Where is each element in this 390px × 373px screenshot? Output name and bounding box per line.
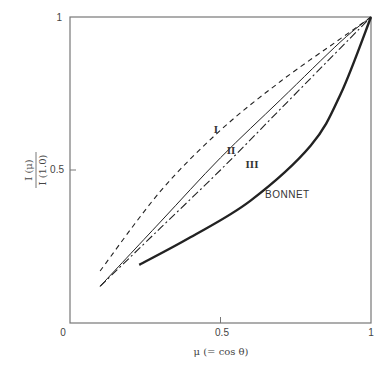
curve-label-III: III (246, 158, 259, 170)
y-axis-title: I (μ) I (1.0) (23, 152, 48, 188)
curve-bonnet (139, 17, 371, 265)
x-tick-label-05: 0.5 (215, 327, 229, 338)
curves (100, 17, 371, 286)
curve-label-I: I (214, 123, 218, 135)
curve-ii (100, 17, 371, 286)
y-tick-label-1: 1 (56, 12, 62, 23)
y-axis-title-numerator: I (μ) (23, 159, 34, 181)
y-tick-label-05: 0.5 (50, 164, 64, 175)
curve-i (100, 17, 371, 271)
limb-darkening-chart: 0 0.5 1 1 0.5 μ (= cos θ) I (μ) I (1.0) … (0, 0, 390, 373)
curve-label-bonnet: BONNET (265, 189, 310, 200)
curve-iii (100, 17, 371, 286)
x-tick-label-0: 0 (60, 327, 66, 338)
curve-label-II: II (227, 144, 236, 156)
y-axis-title-denominator: I (1.0) (37, 154, 48, 185)
x-tick-label-1: 1 (368, 327, 374, 338)
x-axis-title: μ (= cos θ) (194, 346, 249, 357)
